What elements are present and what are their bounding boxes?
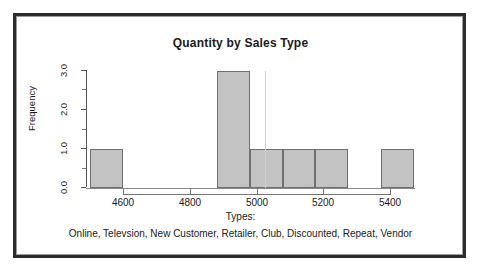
y-tick-label-3: 3.0 xyxy=(58,56,69,86)
x-tick-4600 xyxy=(123,188,124,195)
y-tick-minor-1-5 xyxy=(82,129,86,130)
x-tick-5400 xyxy=(390,188,391,195)
y-tick-1 xyxy=(81,148,86,149)
x-axis-title: Types: xyxy=(17,211,464,222)
chart-subtitle: Online, Televsion, New Customer, Retaile… xyxy=(17,228,464,239)
chart-frame-inner: Quantity by Sales Type Frequency 3.0 2.0… xyxy=(16,16,463,255)
chart-frame-outer: Quantity by Sales Type Frequency 3.0 2.0… xyxy=(13,13,466,258)
y-tick-3 xyxy=(81,70,86,71)
bar-5000-5100 xyxy=(250,149,283,188)
x-tick-label-5200: 5200 xyxy=(301,197,345,208)
x-tick-label-4600: 4600 xyxy=(101,197,145,208)
bar-4500-4600 xyxy=(90,149,123,188)
y-tick-label-0: 0.0 xyxy=(58,173,69,203)
plot-baseline xyxy=(86,188,415,189)
bar-5400-5500 xyxy=(381,149,414,188)
y-tick-minor-2-5 xyxy=(82,89,86,90)
bar-5100-5200 xyxy=(283,149,315,188)
plot-canvas: Quantity by Sales Type Frequency 3.0 2.0… xyxy=(17,17,464,256)
y-tick-label-1: 1.0 xyxy=(58,134,69,164)
bar-5200-5300 xyxy=(315,149,348,188)
screenshot-root: Quantity by Sales Type Frequency 3.0 2.0… xyxy=(0,0,479,271)
y-tick-minor-0-5 xyxy=(82,168,86,169)
bar-4900-5000 xyxy=(217,71,250,188)
y-tick-label-2: 2.0 xyxy=(58,95,69,125)
chart-title: Quantity by Sales Type xyxy=(17,36,464,50)
x-tick-4800 xyxy=(190,188,191,195)
x-tick-label-5000: 5000 xyxy=(235,197,279,208)
x-tick-5200 xyxy=(323,188,324,195)
x-tick-5000 xyxy=(257,188,258,195)
x-tick-label-5400: 5400 xyxy=(368,197,412,208)
y-axis-line xyxy=(86,70,87,187)
cursor-line-artifact xyxy=(265,71,266,188)
x-tick-label-4800: 4800 xyxy=(168,197,212,208)
y-tick-2 xyxy=(81,109,86,110)
y-axis-title: Frequency xyxy=(26,59,37,159)
